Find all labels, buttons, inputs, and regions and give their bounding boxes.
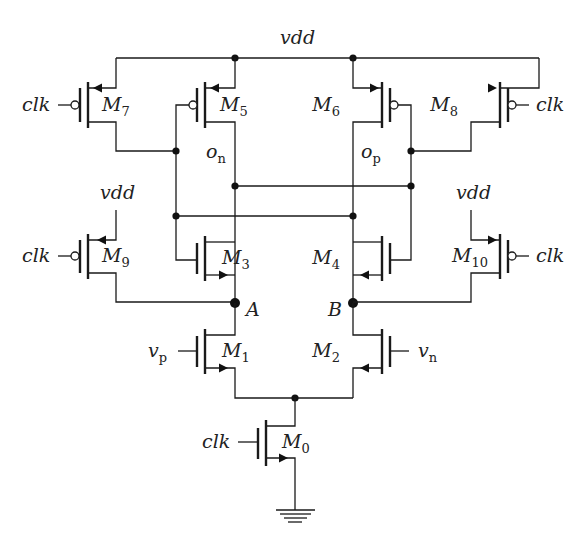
vdd-label-m9: vdd xyxy=(100,181,135,203)
vp-label: vp xyxy=(148,339,167,365)
m5-label: M5 xyxy=(219,93,248,119)
clk-label-m0: clk xyxy=(202,430,230,452)
vdd-label-top: vdd xyxy=(280,26,315,48)
m8-label: M8 xyxy=(429,93,458,119)
clk-label-m8: clk xyxy=(536,93,564,115)
transistor-m0 xyxy=(238,398,295,510)
node-op-label: op xyxy=(361,140,381,166)
source-arrow-icon xyxy=(219,271,228,280)
comparator-schematic: vdd clk M7 M5 on M6 op xyxy=(0,0,582,550)
source-arrow-icon xyxy=(488,84,497,93)
source-arrow-icon xyxy=(370,84,379,93)
vn-label: vn xyxy=(418,339,438,365)
clk-label-m9: clk xyxy=(22,244,50,266)
m4-label: M4 xyxy=(311,246,340,272)
junction-dot xyxy=(407,147,414,154)
clk-label-m10: clk xyxy=(536,244,564,266)
m1-label: M1 xyxy=(221,339,250,365)
source-arrow-icon xyxy=(488,236,497,245)
node-a-label: A xyxy=(244,298,260,320)
node-on-label: on xyxy=(206,140,226,166)
transistor-m9 xyxy=(58,210,235,302)
m7-label: M7 xyxy=(101,93,130,119)
m10-label: M10 xyxy=(451,244,488,270)
m9-label: M9 xyxy=(101,244,130,270)
transistor-m2 xyxy=(353,303,409,398)
node-b-label: B xyxy=(327,298,342,320)
transistor-m4 xyxy=(353,236,390,281)
vdd-label-m10: vdd xyxy=(456,181,491,203)
source-arrow-icon xyxy=(360,364,369,373)
source-arrow-icon xyxy=(219,364,228,373)
source-arrow-icon xyxy=(210,84,219,93)
vdd-rail xyxy=(116,54,539,61)
m6-label: M6 xyxy=(311,93,340,119)
cross-coupling xyxy=(172,182,414,219)
clk-label-m7: clk xyxy=(22,93,50,115)
m2-label: M2 xyxy=(311,339,340,365)
source-arrow-icon xyxy=(93,84,102,93)
junction-dot xyxy=(172,147,179,154)
m0-label: M0 xyxy=(281,430,310,456)
ground-icon xyxy=(276,510,315,522)
source-arrow-icon xyxy=(279,454,288,463)
transistor-m10 xyxy=(353,210,529,302)
source-arrow-icon xyxy=(360,271,369,280)
